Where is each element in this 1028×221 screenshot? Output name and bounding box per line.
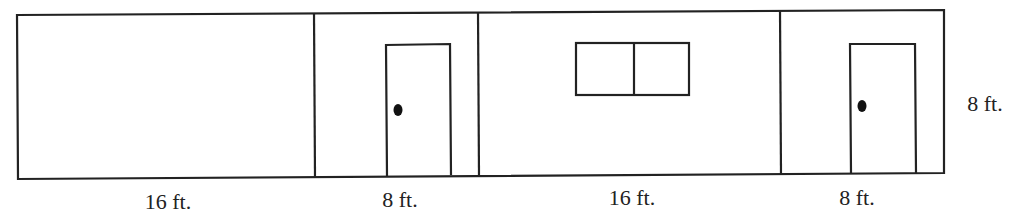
panel-2-width-label: 8 ft. <box>382 187 417 212</box>
wall-elevation-diagram: 16 ft. 8 ft. 16 ft. 8 ft. 8 ft. <box>0 0 1028 221</box>
panel-3-width-label: 16 ft. <box>609 185 655 210</box>
door-1 <box>386 44 451 176</box>
door-2-knob-icon <box>858 100 867 112</box>
wall-outline <box>17 10 944 179</box>
door-2 <box>850 44 916 173</box>
wall-height-label: 8 ft. <box>967 91 1002 116</box>
panel-4-width-label: 8 ft. <box>839 185 874 210</box>
window-frame <box>576 43 689 95</box>
panel-divider-3 <box>780 11 781 174</box>
panel-divider-2 <box>478 13 479 176</box>
window <box>576 43 689 95</box>
door-1-knob-icon <box>394 104 403 116</box>
panel-divider-1 <box>314 14 315 177</box>
panel-1-width-label: 16 ft. <box>145 189 191 214</box>
